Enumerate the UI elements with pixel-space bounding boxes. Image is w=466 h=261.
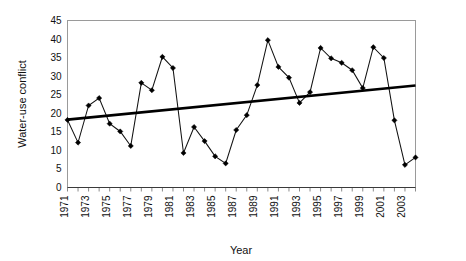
y-axis-title: Water-use conflict [16, 60, 28, 148]
x-tick-label: 1975 [101, 195, 112, 218]
chart-container: 051015202530354045 197119731975197719791… [0, 0, 466, 261]
x-tick-label: 1983 [185, 195, 196, 218]
x-tick-label: 1981 [164, 195, 175, 218]
y-tick-label: 0 [56, 182, 62, 193]
y-tick-label: 5 [56, 163, 62, 174]
x-axis-title: Year [230, 244, 253, 256]
x-tick-label: 2003 [396, 195, 407, 218]
x-tick-label: 1995 [312, 195, 323, 218]
x-tick-label: 1989 [248, 195, 259, 218]
x-tick-label: 1973 [80, 195, 91, 218]
y-tick-label: 35 [50, 52, 62, 63]
y-tick-label: 45 [50, 15, 62, 26]
x-tick-label: 1991 [269, 195, 280, 218]
y-tick-label: 30 [50, 71, 62, 82]
chart-background [0, 0, 466, 261]
x-tick-label: 1993 [291, 195, 302, 218]
y-tick-label: 10 [50, 145, 62, 156]
x-tick-label: 1985 [206, 195, 217, 218]
y-tick-label: 20 [50, 108, 62, 119]
y-tick-label: 15 [50, 126, 62, 137]
water-use-conflict-line-chart: 051015202530354045 197119731975197719791… [0, 0, 466, 261]
x-tick-label: 1997 [333, 195, 344, 218]
y-tick-label: 40 [50, 34, 62, 45]
x-tick-label: 1971 [59, 195, 70, 218]
x-tick-label: 1979 [143, 195, 154, 218]
x-tick-label: 1977 [122, 195, 133, 218]
x-tick-label: 1987 [227, 195, 238, 218]
x-tick-label: 2001 [375, 195, 386, 218]
x-tick-label: 1999 [354, 195, 365, 218]
x-axis-tick-labels: 1971197319751977197919811983198519871989… [59, 195, 407, 218]
y-tick-label: 25 [50, 89, 62, 100]
